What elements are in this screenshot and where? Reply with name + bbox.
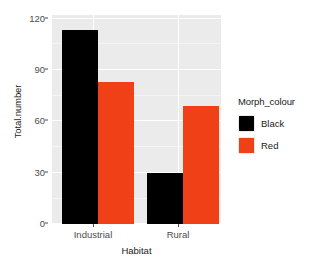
legend-swatch-red xyxy=(239,138,254,153)
bar-rural-red xyxy=(183,106,219,224)
x-axis-title: Habitat xyxy=(52,245,221,256)
bar-rural-black xyxy=(147,173,183,224)
x-tick-mark-rural xyxy=(178,224,179,227)
legend-item-red: Red xyxy=(238,137,295,154)
bar-industrial-black xyxy=(62,30,98,224)
y-tick-label-120: 120 xyxy=(13,13,45,24)
y-tick-label-60: 60 xyxy=(13,115,45,126)
y-tick-mark-120 xyxy=(45,18,48,19)
legend-swatch-black xyxy=(239,116,254,131)
gridline-major-y-120 xyxy=(52,18,221,19)
bar-chart: Total.number 0 30 60 90 120 Ind xyxy=(0,0,327,277)
legend-item-black: Black xyxy=(238,115,295,132)
y-tick-label-30: 30 xyxy=(13,167,45,178)
legend-title: Morph_colour xyxy=(238,96,295,107)
legend-label-black: Black xyxy=(261,118,284,129)
y-axis-ticks: 0 30 60 90 120 xyxy=(12,0,45,277)
legend-key-red xyxy=(238,137,255,154)
legend-label-red: Red xyxy=(261,140,278,151)
plot-panel xyxy=(52,15,221,224)
y-tick-mark-90 xyxy=(45,69,48,70)
x-tick-label-rural: Rural xyxy=(167,229,190,240)
y-tick-mark-30 xyxy=(45,172,48,173)
legend: Morph_colour Black Red xyxy=(238,96,295,159)
legend-key-black xyxy=(238,115,255,132)
x-tick-mark-industrial xyxy=(93,224,94,227)
y-tick-label-0: 0 xyxy=(13,218,45,229)
y-tick-mark-60 xyxy=(45,120,48,121)
y-tick-label-90: 90 xyxy=(13,64,45,75)
y-tick-mark-0 xyxy=(45,223,48,224)
bar-industrial-red xyxy=(98,82,134,224)
x-tick-label-industrial: Industrial xyxy=(74,229,113,240)
